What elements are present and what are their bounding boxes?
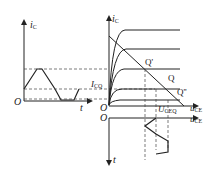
load-line (109, 36, 184, 106)
bottom-t-label: t (113, 155, 116, 165)
characteristic-curve-1 (109, 30, 180, 105)
left-origin-label: O (14, 97, 21, 107)
q-prime-label: Q' (145, 58, 153, 67)
bottom-plot (109, 118, 196, 163)
q-label: Q (168, 74, 175, 83)
characteristic-curve-4 (109, 89, 180, 105)
bottom-uce-waveform (145, 118, 168, 154)
icq-label: ICQ (91, 80, 102, 89)
bottom-origin-label: O (100, 113, 107, 123)
horizontal-guides (24, 69, 155, 99)
right-uce-label: uCE (190, 104, 202, 113)
left-ic-waveform (24, 69, 79, 100)
vertical-guides (145, 69, 168, 160)
right-ic-label: iC (112, 14, 119, 24)
uceq-label: UCEQ (158, 105, 177, 114)
q-double-prime-label: Q'' (177, 88, 187, 97)
bottom-uce-label: uCE (190, 115, 202, 124)
left-ic-label: iC (30, 20, 37, 30)
left-t-label: t (80, 103, 83, 113)
